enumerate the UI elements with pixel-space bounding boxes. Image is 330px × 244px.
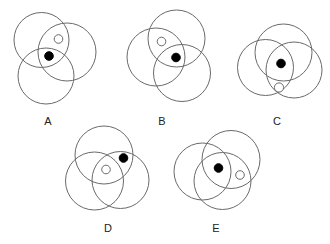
figure-c-filled-dot xyxy=(277,59,286,68)
figure-d: D xyxy=(66,126,150,234)
figure-c-circle-2 xyxy=(238,40,294,96)
figure-e-circle-2 xyxy=(174,143,231,200)
figure-e-hollow-dot xyxy=(236,171,245,180)
figure-c-label: C xyxy=(273,115,281,127)
figure-a: A xyxy=(14,13,96,128)
figure-a-filled-dot xyxy=(45,52,54,61)
figure-a-label: A xyxy=(44,115,52,127)
figure-e-label: E xyxy=(212,222,219,234)
figure-b-circle-3 xyxy=(154,45,211,102)
figure-e-circle-3 xyxy=(194,153,251,210)
figure-d-circle-2 xyxy=(66,152,124,210)
figure-e-filled-dot xyxy=(214,164,223,173)
venn-diagram-options: A B C D E xyxy=(0,0,330,244)
figure-c-hollow-dot xyxy=(274,83,283,92)
figure-d-filled-dot xyxy=(119,154,128,163)
figure-b: B xyxy=(127,10,211,127)
figure-c: C xyxy=(238,24,323,127)
figure-b-filled-dot xyxy=(172,53,181,62)
figure-b-label: B xyxy=(158,115,165,127)
figure-c-circle-1 xyxy=(255,24,312,81)
figure-d-hollow-dot xyxy=(102,165,111,174)
figure-a-hollow-dot xyxy=(54,35,63,44)
figure-d-label: D xyxy=(104,222,112,234)
figure-e: E xyxy=(174,131,260,235)
figure-b-hollow-dot xyxy=(157,37,166,46)
